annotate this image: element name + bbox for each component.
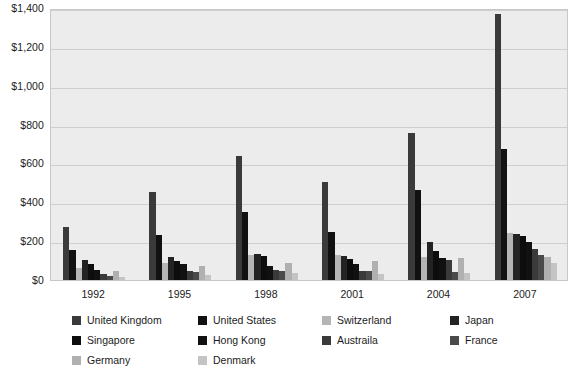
bar-group: [483, 10, 569, 280]
legend-row: GermanyDenmark: [72, 350, 552, 370]
legend-label: Austraila: [337, 334, 378, 346]
legend-label: Singapore: [87, 334, 135, 346]
legend-item[interactable]: Denmark: [198, 354, 322, 366]
y-axis-tick-label: $400: [0, 196, 44, 208]
x-axis-tick-label: 2004: [427, 288, 450, 300]
x-axis-tick-label: 1995: [168, 288, 191, 300]
bar: [119, 277, 125, 280]
legend-label: United Kingdom: [87, 314, 162, 326]
x-axis-tick-label: 2007: [513, 288, 536, 300]
bar: [464, 273, 470, 280]
bar: [292, 273, 298, 280]
y-axis-tick-label: $200: [0, 235, 44, 247]
y-axis-tick-label: $1,000: [0, 80, 44, 92]
legend-swatch-icon: [450, 336, 459, 345]
legend-swatch-icon: [322, 336, 331, 345]
y-axis-tick-label: $1,200: [0, 41, 44, 53]
legend-item[interactable]: United States: [198, 314, 322, 326]
x-axis-tick-label: 1998: [254, 288, 277, 300]
x-axis-tick-label: 1992: [81, 288, 104, 300]
y-axis-tick-label: $800: [0, 119, 44, 131]
y-axis-tick-label: $600: [0, 157, 44, 169]
legend-item[interactable]: Germany: [72, 354, 198, 366]
legend-swatch-icon: [322, 316, 331, 325]
chart-legend: United KingdomUnited StatesSwitzerlandJa…: [72, 310, 552, 370]
legend-label: Switzerland: [337, 314, 391, 326]
y-axis-tick-label: $1,400: [0, 2, 44, 14]
legend-item[interactable]: Japan: [450, 314, 560, 326]
legend-label: Hong Kong: [213, 334, 266, 346]
legend-label: France: [465, 334, 498, 346]
y-axis-tick-label: $0: [0, 274, 44, 286]
legend-label: United States: [213, 314, 276, 326]
legend-swatch-icon: [72, 336, 81, 345]
legend-swatch-icon: [72, 356, 81, 365]
x-axis-tick-label: 2001: [340, 288, 363, 300]
legend-item[interactable]: Switzerland: [322, 314, 450, 326]
bar-group: [137, 10, 223, 280]
legend-item[interactable]: United Kingdom: [72, 314, 198, 326]
bar-group: [310, 10, 396, 280]
legend-label: Germany: [87, 354, 130, 366]
bar: [205, 275, 211, 280]
bar-chart: $0$200$400$600$800$1,000$1,200$1,400 199…: [0, 0, 577, 380]
legend-item[interactable]: Austraila: [322, 334, 450, 346]
plot-area: [50, 9, 568, 281]
legend-label: Denmark: [213, 354, 256, 366]
legend-item[interactable]: Hong Kong: [198, 334, 322, 346]
legend-swatch-icon: [198, 336, 207, 345]
bar: [378, 274, 384, 280]
legend-swatch-icon: [72, 316, 81, 325]
legend-row: United KingdomUnited StatesSwitzerlandJa…: [72, 310, 552, 330]
bar-group: [224, 10, 310, 280]
legend-item[interactable]: Singapore: [72, 334, 198, 346]
legend-item[interactable]: France: [450, 334, 560, 346]
legend-swatch-icon: [198, 316, 207, 325]
bar-group: [396, 10, 482, 280]
bar: [551, 263, 557, 280]
legend-row: SingaporeHong KongAustrailaFrance: [72, 330, 552, 350]
legend-swatch-icon: [450, 316, 459, 325]
legend-label: Japan: [465, 314, 494, 326]
bar-group: [51, 10, 137, 280]
legend-swatch-icon: [198, 356, 207, 365]
